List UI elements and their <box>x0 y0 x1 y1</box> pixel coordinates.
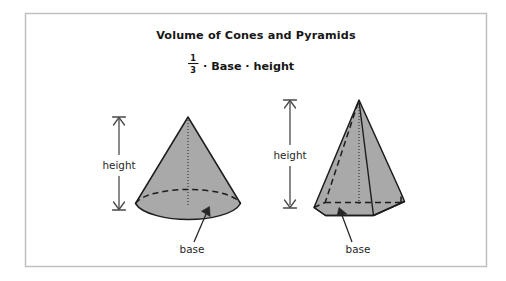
diagram-title: Volume of Cones and Pyramids <box>156 29 356 42</box>
volume-of-cones-and-pyramids-diagram: Volume of Cones and Pyramids 1 3 · Base … <box>0 0 506 281</box>
cone-base-label: base <box>180 243 205 255</box>
figure-container: Volume of Cones and Pyramids 1 3 · Base … <box>0 0 506 281</box>
fraction-numerator: 1 <box>190 53 196 63</box>
fraction-denominator: 3 <box>190 65 196 75</box>
cone-height-label: height <box>102 159 135 171</box>
formula-expression: · Base · height <box>203 60 295 73</box>
diagram-frame <box>26 14 487 267</box>
pyramid-height-label: height <box>273 149 306 161</box>
pyramid-base-label: base <box>346 243 371 255</box>
